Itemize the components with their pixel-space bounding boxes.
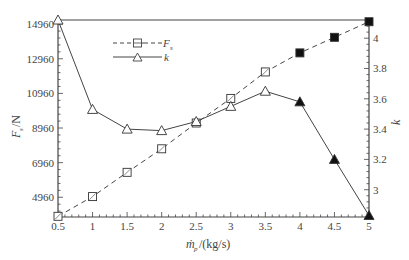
svg-text:s: s bbox=[17, 128, 25, 131]
x-tick-label: 0.5 bbox=[51, 220, 65, 232]
legend-fs-sub: s bbox=[170, 44, 173, 52]
svg-text:/(kg/s): /(kg/s) bbox=[199, 237, 230, 251]
svg-text:p: p bbox=[193, 245, 198, 253]
right-y-tick-label: 4 bbox=[373, 32, 379, 44]
triangle-marker-icon bbox=[364, 210, 374, 219]
right-y-tick-label: 3.6 bbox=[373, 93, 387, 105]
x-tick-label: 4.5 bbox=[328, 220, 342, 232]
plot-frame bbox=[58, 20, 369, 217]
x-tick-label: 3 bbox=[228, 220, 234, 232]
series-fs bbox=[54, 18, 373, 221]
left-y-tick-label: 8960 bbox=[32, 122, 55, 134]
data-series bbox=[53, 15, 374, 220]
square-marker-icon bbox=[365, 18, 373, 26]
x-tick-label: 5 bbox=[366, 220, 372, 232]
left-y-axis-label: F s /N bbox=[9, 115, 25, 139]
square-marker-icon bbox=[330, 33, 338, 41]
right-y-axis-ticks: 33.23.43.63.84 bbox=[364, 20, 387, 214]
left-y-tick-label: 6960 bbox=[32, 157, 55, 169]
right-y-tick-label: 3 bbox=[373, 184, 379, 196]
x-tick-label: 3.5 bbox=[258, 220, 272, 232]
triangle-marker-icon bbox=[88, 104, 98, 113]
x-tick-label: 2 bbox=[159, 220, 165, 232]
x-tick-label: 1.5 bbox=[120, 220, 134, 232]
triangle-marker-icon bbox=[329, 154, 339, 163]
legend-fs-label: F bbox=[162, 37, 170, 49]
left-y-tick-label: 10960 bbox=[27, 87, 55, 99]
x-axis-ticks: 0.511.522.533.544.55 bbox=[51, 212, 372, 232]
series-k bbox=[53, 15, 374, 219]
right-y-tick-label: 3.2 bbox=[373, 153, 387, 165]
left-y-tick-label: 4960 bbox=[32, 191, 55, 203]
right-y-tick-label: 3.4 bbox=[373, 123, 387, 135]
x-tick-label: 1 bbox=[90, 220, 96, 232]
right-y-axis-label: k bbox=[389, 119, 403, 125]
right-y-tick-label: 3.8 bbox=[373, 62, 387, 74]
legend: F s k bbox=[113, 37, 173, 63]
left-y-tick-label: 12960 bbox=[27, 53, 55, 65]
square-marker-icon bbox=[296, 49, 304, 57]
x-tick-label: 4 bbox=[297, 220, 303, 232]
x-axis-label: ṁ p /(kg/s) bbox=[186, 237, 230, 253]
dual-axis-line-chart: 0.511.522.533.544.55 4960696089601096012… bbox=[0, 0, 409, 260]
x-tick-label: 2.5 bbox=[189, 220, 203, 232]
left-y-tick-label: 14960 bbox=[27, 18, 55, 30]
triangle-marker-icon bbox=[260, 86, 270, 95]
triangle-marker-icon bbox=[295, 97, 305, 106]
triangle-marker-icon bbox=[122, 124, 132, 133]
svg-text:/N: /N bbox=[9, 115, 23, 127]
svg-text:k: k bbox=[389, 119, 403, 125]
legend-k-label: k bbox=[164, 51, 170, 63]
